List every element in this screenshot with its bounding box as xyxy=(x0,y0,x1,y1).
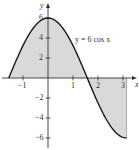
x-tick-label: 2 xyxy=(96,82,100,90)
y-axis-label: y xyxy=(40,2,44,10)
x-axis-label: x xyxy=(135,81,139,89)
y-tick-label: 2 xyxy=(39,54,43,62)
y-tick-label: 4 xyxy=(39,34,43,42)
function-label: y = 6 cos x xyxy=(75,36,110,44)
y-axis-arrow-icon xyxy=(46,3,50,8)
y-tick-label: −6 xyxy=(35,134,44,142)
y-tick-label: 6 xyxy=(39,14,43,22)
y-tick-label: −4 xyxy=(35,114,44,122)
x-tick-label: 1 xyxy=(71,82,75,90)
y-tick-label: −2 xyxy=(35,94,44,102)
x-tick-label: −1 xyxy=(18,82,27,90)
cosine-area-chart xyxy=(0,0,139,150)
x-tick-label: 3 xyxy=(121,82,125,90)
